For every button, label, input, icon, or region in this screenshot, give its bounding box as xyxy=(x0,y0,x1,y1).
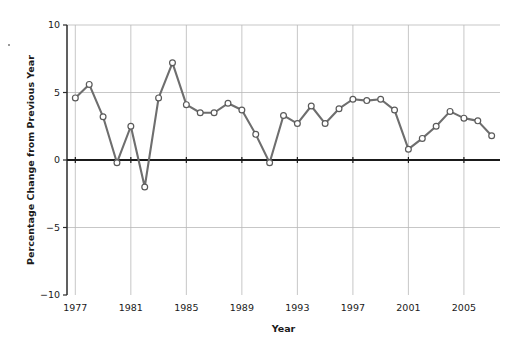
data-point-marker xyxy=(447,109,453,115)
data-point-marker xyxy=(142,184,148,190)
data-point-marker xyxy=(114,160,120,166)
data-point-marker xyxy=(336,106,342,112)
x-axis-tick-label: 1993 xyxy=(285,302,309,313)
data-point-marker xyxy=(433,123,439,129)
y-axis-tick-label: 10 xyxy=(48,19,60,30)
y-axis-tick-label: 5 xyxy=(54,87,60,98)
data-point-marker xyxy=(419,136,425,142)
y-axis-tick-label: −10 xyxy=(40,289,60,300)
data-point-marker xyxy=(156,95,162,101)
data-point-marker xyxy=(128,123,134,129)
x-axis-tick-label: 2005 xyxy=(452,302,476,313)
chart-container: −10−505101977198119851989199319972001200… xyxy=(0,0,515,345)
data-point-marker xyxy=(322,121,328,127)
data-point-marker xyxy=(461,115,467,121)
x-axis-tick-label: 1981 xyxy=(119,302,143,313)
data-point-marker xyxy=(392,107,398,113)
data-point-marker xyxy=(86,82,92,88)
data-point-marker xyxy=(406,146,412,152)
data-point-marker xyxy=(170,60,176,66)
data-point-marker xyxy=(350,96,356,102)
data-point-marker xyxy=(211,110,217,116)
x-axis-tick-label: 1989 xyxy=(230,302,254,313)
x-axis-tick-label: 1985 xyxy=(174,302,198,313)
y-axis-tick-label: 0 xyxy=(54,154,60,165)
data-point-marker xyxy=(197,110,203,116)
data-series-line xyxy=(75,63,491,187)
x-axis-tick-label: 1997 xyxy=(341,302,365,313)
data-point-marker xyxy=(267,160,273,166)
x-axis-title: Year xyxy=(271,323,296,334)
data-point-marker xyxy=(225,100,231,106)
data-point-marker xyxy=(183,102,189,108)
data-point-marker xyxy=(281,113,287,119)
x-axis-tick-label: 2001 xyxy=(396,302,420,313)
data-point-marker xyxy=(308,103,314,109)
data-point-marker xyxy=(253,131,259,137)
data-point-marker xyxy=(364,98,370,104)
y-axis-title: Percentage Change from Previous Year xyxy=(25,55,36,265)
data-point-marker xyxy=(489,133,495,139)
data-point-marker xyxy=(100,114,106,120)
line-chart: −10−505101977198119851989199319972001200… xyxy=(0,0,515,345)
data-point-marker xyxy=(294,121,300,127)
y-axis-tick-label: −5 xyxy=(46,222,60,233)
data-point-marker xyxy=(378,96,384,102)
data-point-marker xyxy=(72,95,78,101)
x-axis-tick-label: 1977 xyxy=(63,302,87,313)
data-point-marker xyxy=(475,118,481,124)
data-point-marker xyxy=(239,107,245,113)
